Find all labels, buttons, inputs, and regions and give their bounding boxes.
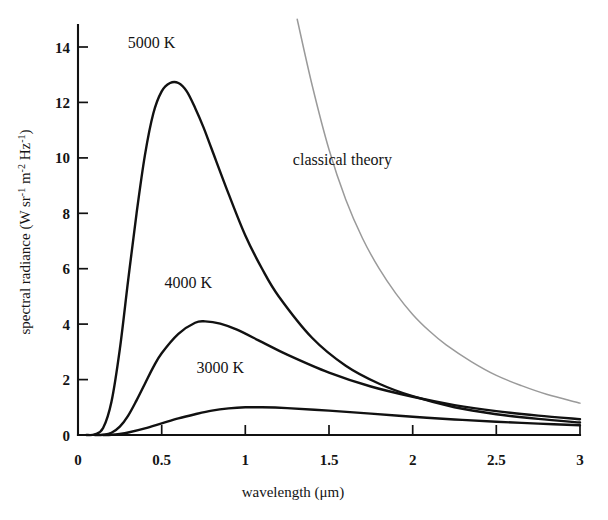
y-axis-title-sup3: -1 <box>16 134 27 142</box>
data-curves <box>86 19 580 435</box>
curve-3000k <box>103 407 580 435</box>
curve-4000k <box>95 321 580 435</box>
y-axis-title-close: ) <box>17 129 34 134</box>
svg-text:spectral radiance (W sr-1 m-2: spectral radiance (W sr-1 m-2 Hz-1) <box>16 129 34 334</box>
x-tick-label-1: 1 <box>242 452 250 468</box>
blackbody-radiation-figure: 0 2 4 6 8 10 12 14 0 0.5 1 1.5 2 2.5 3 <box>0 0 608 520</box>
y-axis-title-mid2: Hz <box>17 142 33 164</box>
curve-label-3000k: 3000 K <box>196 359 244 376</box>
x-axis-title-text: wavelength ( <box>242 484 320 501</box>
y-axis-ticks <box>78 47 88 435</box>
curve-classical-theory <box>297 19 580 403</box>
y-axis-title-sup1: -1 <box>16 188 27 196</box>
x-axis-title-unit: μm <box>320 484 340 500</box>
x-axis-tick-labels: 0 0.5 1 1.5 2 2.5 3 <box>74 452 584 468</box>
x-tick-label-0.5: 0.5 <box>152 452 171 468</box>
curve-label-classical: classical theory <box>293 151 392 169</box>
y-axis-title-sup2: -2 <box>16 164 27 172</box>
y-axis-title-mid1: m <box>17 172 33 188</box>
x-axis-title-close: ) <box>339 484 344 501</box>
curve-label-5000k: 5000 K <box>128 34 176 51</box>
x-axis-title: wavelength (μm) <box>242 484 345 501</box>
spectral-radiance-chart: 0 2 4 6 8 10 12 14 0 0.5 1 1.5 2 2.5 3 <box>0 0 608 520</box>
y-axis-title: spectral radiance (W sr-1 m-2 Hz-1) <box>16 129 34 334</box>
y-tick-label-4: 4 <box>63 317 71 333</box>
y-axis-tick-labels: 0 2 4 6 8 10 12 14 <box>55 40 71 444</box>
x-tick-label-2.5: 2.5 <box>487 452 506 468</box>
x-tick-label-3: 3 <box>576 452 584 468</box>
x-tick-label-2: 2 <box>409 452 417 468</box>
y-tick-label-14: 14 <box>55 40 71 56</box>
y-tick-label-12: 12 <box>55 95 70 111</box>
y-axis-title-lead: spectral radiance (W sr <box>17 196 34 334</box>
y-tick-label-8: 8 <box>63 206 71 222</box>
y-tick-label-0: 0 <box>63 428 71 444</box>
y-tick-label-2: 2 <box>63 372 71 388</box>
x-tick-label-0: 0 <box>74 452 82 468</box>
curve-5000k <box>86 82 580 435</box>
y-tick-label-10: 10 <box>55 150 70 166</box>
y-tick-label-6: 6 <box>63 261 71 277</box>
x-tick-label-1.5: 1.5 <box>320 452 339 468</box>
curve-label-4000k: 4000 K <box>165 274 213 291</box>
svg-text:wavelength (μm): wavelength (μm) <box>242 484 345 501</box>
